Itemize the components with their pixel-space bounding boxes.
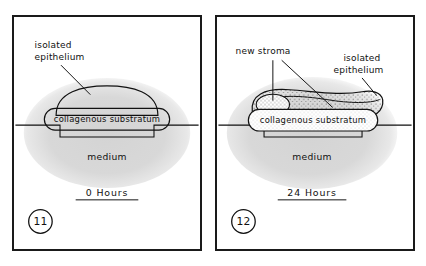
figure-root: isolated epithelium collagenous substrat… [0,0,426,266]
caption-24-hours: 24 Hours [287,187,337,198]
label-isolated-epithelium-line2: epithelium [334,65,384,75]
panel-11: isolated epithelium collagenous substrat… [12,15,202,251]
label-new-stroma: new stroma [236,46,291,56]
panel-11-illustration: isolated epithelium collagenous substrat… [14,17,200,249]
label-collagenous-substratum: collagenous substratum [54,114,160,124]
label-isolated-epithelium-line2: epithelium [35,52,85,62]
figure-number-11: 11 [34,215,48,228]
label-medium: medium [87,151,127,162]
label-medium: medium [292,151,332,162]
label-isolated-epithelium-line1: isolated [343,53,380,63]
label-isolated-epithelium-line1: isolated [35,40,72,50]
panel-12-illustration: new stroma isolated epithelium collageno… [217,17,413,249]
figure-number-12: 12 [237,215,251,228]
panel-12: new stroma isolated epithelium collageno… [215,15,415,251]
label-collagenous-substratum: collagenous substratum [260,115,367,125]
caption-0-hours: 0 Hours [86,187,129,198]
medium-blob [24,78,190,188]
